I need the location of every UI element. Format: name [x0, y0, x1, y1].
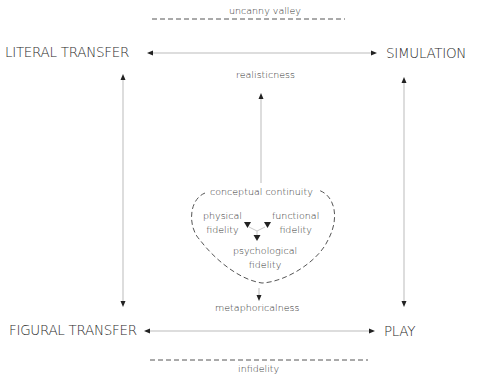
play-label: PLAY: [384, 323, 415, 339]
infidelity-label: infidelity: [238, 363, 279, 374]
functional-fidelity-line2: fidelity: [272, 223, 319, 237]
left-vertical-double-arrow: [121, 74, 126, 307]
physical-fidelity-line1: physical: [203, 209, 242, 223]
functional-fidelity-label: functional fidelity: [272, 209, 319, 237]
metaphoricalness-label: metaphoricalness: [215, 302, 300, 313]
psychological-fidelity-label: psychological fidelity: [233, 244, 297, 272]
psychological-fidelity-arrowhead: [254, 235, 261, 241]
psychological-fidelity-line1: psychological: [233, 244, 297, 258]
realisticness-label: realisticness: [236, 69, 295, 80]
functional-fidelity-line1: functional: [272, 209, 319, 223]
physical-fidelity-line2: fidelity: [203, 223, 242, 237]
conceptual-continuity-label: conceptual continuity: [210, 186, 313, 197]
simulation-label: SIMULATION: [386, 45, 466, 61]
top-horizontal-double-arrow: [147, 51, 377, 56]
right-vertical-double-arrow: [402, 77, 407, 307]
uncanny-valley-label: uncanny valley: [229, 5, 301, 16]
bottom-horizontal-double-arrow: [144, 329, 375, 334]
fidelity-connector: [244, 222, 271, 241]
realisticness-arrow: [259, 93, 264, 183]
literal-transfer-label: LITERAL TRANSFER: [5, 44, 129, 60]
metaphoricalness-arrow: [257, 288, 262, 301]
psychological-fidelity-line2: fidelity: [233, 258, 297, 272]
physical-fidelity-label: physical fidelity: [203, 209, 242, 237]
figural-transfer-label: FIGURAL TRANSFER: [9, 322, 137, 338]
